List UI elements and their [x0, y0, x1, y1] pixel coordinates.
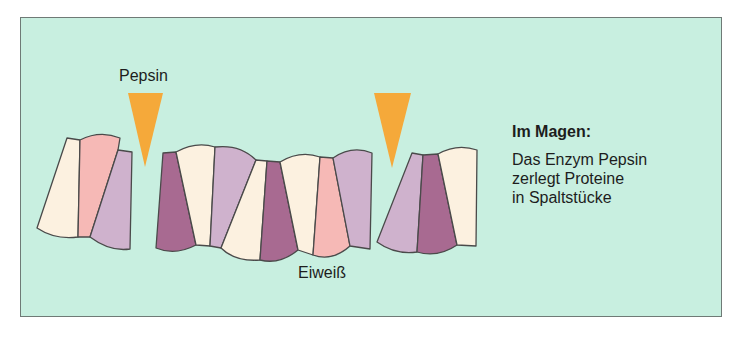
pepsin-wedge-right	[374, 93, 411, 168]
segment-cream	[37, 138, 80, 238]
side-description: Das Enzym Pepsin zerlegt Proteine in Spa…	[512, 150, 647, 207]
description-line: Das Enzym Pepsin	[512, 150, 647, 169]
description-line: zerlegt Proteine	[512, 169, 647, 188]
enzyme-label: Pepsin	[119, 66, 168, 85]
segment-lilac	[377, 153, 423, 253]
side-title: Im Magen:	[512, 122, 591, 141]
middle-fragment	[156, 145, 372, 261]
left-fragment	[37, 134, 132, 249]
description-line: in Spaltstücke	[512, 188, 647, 207]
pepsin-wedge-left	[128, 93, 163, 167]
substrate-label: Eiweiß	[298, 263, 346, 282]
